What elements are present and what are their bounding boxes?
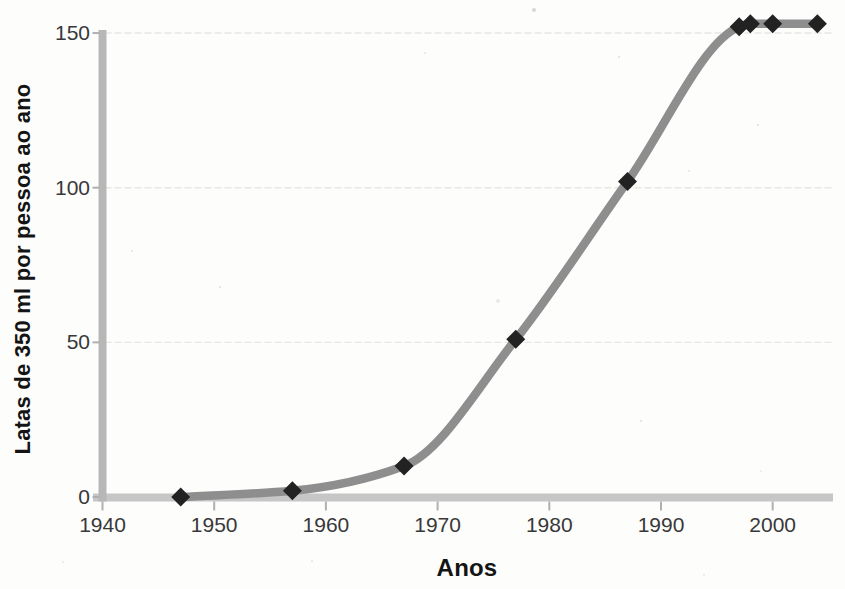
- data-series-curve: [181, 24, 818, 497]
- x-axis-title: Anos: [367, 554, 567, 582]
- x-tick-label: 1960: [281, 514, 371, 536]
- y-axis-title: Latas de 350 ml por pessoa ao ano: [10, 38, 36, 500]
- data-point-marker: [763, 14, 782, 33]
- data-point-marker: [808, 14, 827, 33]
- chart-figure: 1940195019601970198019902000050100150 La…: [0, 0, 845, 589]
- data-point-marker: [171, 488, 190, 507]
- x-tick-label: 2000: [728, 514, 818, 536]
- scan-noise-specks: [0, 0, 2, 2]
- x-tick-label: 1990: [616, 514, 706, 536]
- x-tick-label: 1980: [504, 514, 594, 536]
- x-tick-label: 1970: [393, 514, 483, 536]
- x-tick-label: 1950: [169, 514, 259, 536]
- plot-area: [0, 0, 845, 589]
- x-tick-label: 1940: [58, 514, 148, 536]
